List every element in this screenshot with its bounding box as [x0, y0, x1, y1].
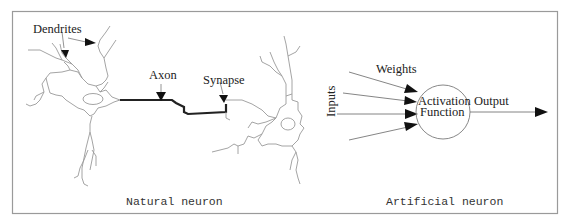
dendrites-arrow-2	[85, 38, 96, 46]
activation-label-line2: Function	[420, 105, 465, 119]
input-arrow-4	[404, 122, 418, 131]
synapse-arrow	[219, 95, 228, 103]
axon	[120, 100, 226, 114]
input-arrow-1	[404, 84, 418, 93]
natural-neuron-panel: Dendrites Axon Synapse Natural neuron	[26, 22, 304, 208]
output-label: Output	[474, 94, 509, 108]
weights-label: Weights	[376, 62, 417, 76]
inputs-label: Inputs	[324, 86, 338, 117]
artificial-neuron-caption: Artificial neuron	[386, 195, 503, 208]
nucleus	[281, 118, 295, 130]
natural-neuron-caption: Natural neuron	[126, 195, 223, 208]
artificial-neuron-panel: Weights Inputs Activation Function Outpu…	[324, 62, 548, 208]
axon-label: Axon	[149, 68, 178, 82]
dendrites-label: Dendrites	[33, 22, 82, 36]
output-arrow	[535, 107, 548, 117]
neuron-comparison-diagram: Dendrites Axon Synapse Natural neuron We…	[0, 0, 566, 221]
input-arrow-2	[404, 96, 417, 105]
nucleus	[83, 94, 103, 105]
input-arrows	[337, 72, 418, 140]
synapse-label: Synapse	[203, 73, 245, 87]
presynaptic-neuron	[26, 26, 120, 186]
